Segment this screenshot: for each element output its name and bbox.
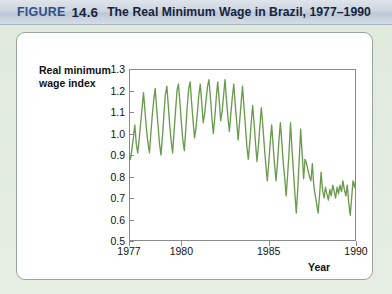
x-tick-label: 1985 xyxy=(249,245,289,257)
plot-area: Real minimum wage index 0.50.60.70.80.91… xyxy=(17,33,374,281)
x-axis-label: Year xyxy=(308,261,330,273)
x-tick-label: 1980 xyxy=(161,245,201,257)
figure-card: Real minimum wage index 0.50.60.70.80.91… xyxy=(16,32,373,280)
x-tick-label: 1977 xyxy=(109,245,149,257)
y-axis-ticks: 0.50.60.70.80.91.01.11.21.3 xyxy=(97,69,125,241)
y-tick-label: 1.3 xyxy=(99,63,125,75)
y-tick-label: 0.9 xyxy=(99,149,125,161)
figure-title: The Real Minimum Wage in Brazil, 1977–19… xyxy=(107,5,371,19)
figure-root: FIGURE 14.6 The Real Minimum Wage in Bra… xyxy=(0,0,392,294)
y-tick-label: 1.0 xyxy=(99,128,125,140)
y-tick-label: 0.6 xyxy=(99,214,125,226)
data-series-line xyxy=(129,69,356,241)
y-tick-label: 0.7 xyxy=(99,192,125,204)
series-path xyxy=(129,80,356,215)
figure-number: 14.6 xyxy=(71,5,98,20)
figure-label: FIGURE xyxy=(17,5,65,19)
y-tick-label: 1.2 xyxy=(99,85,125,97)
x-tick-label: 1990 xyxy=(336,245,376,257)
y-tick-label: 0.8 xyxy=(99,171,125,183)
figure-header: FIGURE 14.6 The Real Minimum Wage in Bra… xyxy=(0,0,392,25)
y-tick-label: 1.1 xyxy=(99,106,125,118)
